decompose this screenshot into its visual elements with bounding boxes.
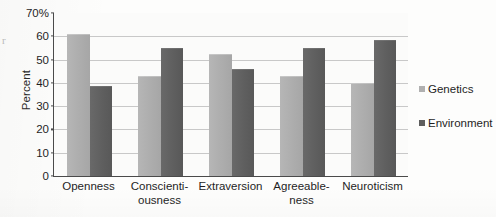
x-axis-label-line: Conscienti- bbox=[124, 180, 195, 194]
y-tick-label: 60 bbox=[36, 30, 49, 42]
legend-label-environment: Environment bbox=[428, 117, 493, 129]
y-tick-mark bbox=[51, 152, 55, 153]
scan-artifact-mark: r bbox=[2, 36, 11, 44]
x-axis-label-1: Conscienti-ousness bbox=[124, 180, 195, 207]
legend-label-genetics: Genetics bbox=[428, 83, 473, 95]
bar-environment-1 bbox=[161, 48, 184, 176]
x-axis-label-line: Agreeable- bbox=[266, 180, 337, 194]
x-axis-label-line: ousness bbox=[124, 194, 195, 208]
x-axis-label-line: ness bbox=[266, 194, 337, 208]
y-tick-label: 10 bbox=[36, 147, 49, 159]
bar-genetics-4 bbox=[351, 83, 374, 176]
y-tick-mark bbox=[51, 59, 55, 60]
chart-screenshot: r Percent 70%6050403020100 OpennessConsc… bbox=[0, 0, 496, 217]
bar-environment-4 bbox=[374, 40, 397, 176]
y-tick-label: 50 bbox=[36, 54, 49, 66]
x-axis-label-2: Extraversion bbox=[195, 180, 266, 194]
x-axis-label-line: Extraversion bbox=[195, 180, 266, 194]
y-tick-label: 40 bbox=[36, 77, 49, 89]
x-axis-label-4: Neuroticism bbox=[337, 180, 408, 194]
y-tick-mark bbox=[51, 129, 55, 130]
y-tick-mark bbox=[51, 12, 55, 13]
bar-genetics-1 bbox=[138, 76, 161, 176]
legend-swatch-genetics-icon bbox=[419, 86, 425, 92]
bar-genetics-2 bbox=[209, 54, 232, 176]
y-tick-label: 20 bbox=[36, 123, 49, 135]
y-tick-label: 0 bbox=[43, 170, 49, 182]
x-axis-label-line: Openness bbox=[53, 180, 124, 194]
legend-item-environment: Environment bbox=[419, 116, 493, 130]
y-tick-mark bbox=[51, 82, 55, 83]
chart-legend: Genetics Environment bbox=[419, 82, 493, 150]
bar-environment-0 bbox=[90, 86, 113, 176]
plot-area: 70%6050403020100 bbox=[53, 13, 408, 176]
legend-item-genetics: Genetics bbox=[419, 82, 493, 96]
bar-genetics-0 bbox=[67, 34, 90, 176]
gridline bbox=[54, 36, 408, 37]
bar-environment-2 bbox=[232, 69, 255, 176]
y-tick-mark bbox=[51, 106, 55, 107]
legend-swatch-environment-icon bbox=[419, 120, 425, 126]
x-axis-label-0: Openness bbox=[53, 180, 124, 194]
bar-genetics-3 bbox=[280, 76, 303, 176]
y-axis-title: Percent bbox=[20, 50, 32, 130]
y-tick-label: 30 bbox=[36, 100, 49, 112]
y-tick-mark bbox=[51, 36, 55, 37]
bar-environment-3 bbox=[303, 48, 326, 176]
x-axis-label-line: Neuroticism bbox=[337, 180, 408, 194]
y-tick-label: 70% bbox=[26, 7, 49, 19]
x-axis-line bbox=[53, 176, 408, 177]
x-axis-label-3: Agreeable-ness bbox=[266, 180, 337, 207]
